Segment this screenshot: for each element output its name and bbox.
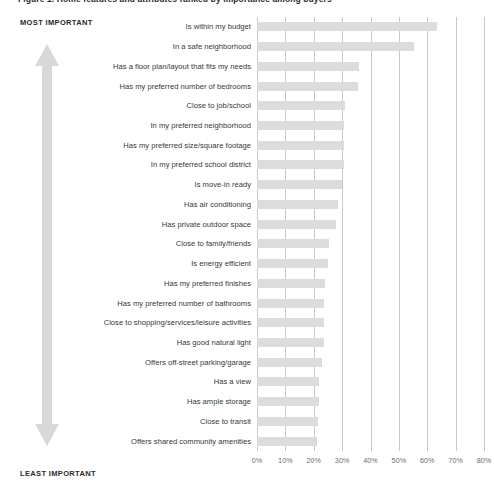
bar-row: Is move-in ready [0,175,494,195]
bar [257,318,324,327]
bar-category-label: Has ample storage [15,397,251,406]
bar [257,82,358,91]
bar-category-label: Has good natural light [15,338,251,347]
bar [257,220,336,229]
bar-category-label: In my preferred neighborhood [15,121,251,130]
bar-row: Is within my budget [0,17,494,37]
bar-row: Has my preferred size/square footage [0,135,494,155]
bar-category-label: Has my preferred finishes [15,279,251,288]
bar-category-label: Has a floor plan/layout that fits my nee… [15,62,251,71]
bar-category-label: Is move-in ready [15,180,251,189]
bar-row: Has my preferred number of bedrooms [0,76,494,96]
bar-category-label: Has my preferred size/square footage [15,141,251,150]
bar [257,338,324,347]
bar-row: Has a floor plan/layout that fits my nee… [0,56,494,76]
bar-row: In my preferred school district [0,155,494,175]
bar-category-label: Has my preferred number of bedrooms [15,82,251,91]
bar [257,200,338,209]
bar-row: Offers shared community amenities [0,431,494,451]
bar-row: Close to job/school [0,96,494,116]
bar-chart: Is within my budgetIn a safe neighborhoo… [0,0,494,492]
bar [257,62,359,71]
bar [257,101,345,110]
bar-category-label: Is within my budget [15,22,251,31]
bar-category-label: Offers shared community amenities [15,437,251,446]
bar-category-label: Has private outdoor space [15,220,251,229]
bar-category-label: Is energy efficient [15,259,251,268]
bar-category-label: Has my preferred number of bathrooms [15,299,251,308]
bar-row: Close to family/friends [0,234,494,254]
bar-category-label: Close to shopping/services/leisure activ… [15,318,251,327]
bar-row: Has my preferred number of bathrooms [0,293,494,313]
bar [257,259,328,268]
bar-category-label: Offers off-street parking/garage [15,358,251,367]
bar-row: Has private outdoor space [0,214,494,234]
x-axis-ticks: 0%10%20%30%40%50%60%70%80% [0,456,494,470]
bar-row: Offers off-street parking/garage [0,352,494,372]
bar-category-label: Close to family/friends [15,239,251,248]
bar [257,22,437,31]
bar [257,239,329,248]
bar [257,42,414,51]
bar [257,160,344,169]
bar [257,121,344,130]
bar-row: Has air conditioning [0,195,494,215]
bar [257,141,344,150]
bar-row: Has my preferred finishes [0,273,494,293]
bar-category-label: In my preferred school district [15,160,251,169]
bar-category-label: Has air conditioning [15,200,251,209]
bar-rows: Is within my budgetIn a safe neighborhoo… [0,17,494,451]
bar-row: Has good natural light [0,333,494,353]
bar-row: Has a view [0,372,494,392]
bar-row: Is energy efficient [0,254,494,274]
bar [257,279,325,288]
bar [257,358,322,367]
bar-row: In a safe neighborhood [0,37,494,57]
bar-category-label: In a safe neighborhood [15,42,251,51]
bar [257,397,319,406]
bar [257,180,342,189]
bar [257,417,318,426]
bar-category-label: Close to job/school [15,101,251,110]
bar-row: Close to shopping/services/leisure activ… [0,313,494,333]
bar-row: In my preferred neighborhood [0,116,494,136]
bar-row: Close to transit [0,412,494,432]
bar-row: Has ample storage [0,392,494,412]
bar-category-label: Has a view [15,377,251,386]
bar [257,437,317,446]
bar [257,299,324,308]
bar-category-label: Close to transit [15,417,251,426]
x-tick-label: 80% [464,456,494,465]
bar [257,377,319,386]
